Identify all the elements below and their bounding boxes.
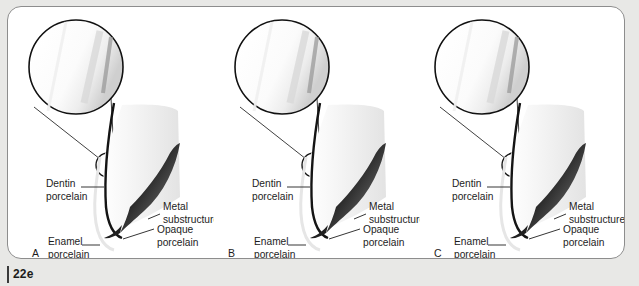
figure-root: Dentin porcelain Enamel porcelain Metal …: [0, 0, 639, 286]
panel-letter-b: B: [228, 247, 235, 259]
opaque-label-line2: porcelain: [363, 237, 404, 248]
enamel-label-line1: Enamel: [254, 236, 289, 247]
magnifier-circle: [435, 20, 529, 114]
dentin-label-line2: porcelain: [452, 191, 493, 202]
dentin-label-line1: Dentin: [452, 178, 481, 189]
enamel-label-line2: porcelain: [48, 249, 89, 259]
panel-letter-a: A: [32, 247, 39, 259]
dentin-label-line2: porcelain: [46, 191, 87, 202]
caption-number: 22e: [13, 268, 34, 280]
magnifier-leader-line-lower: [240, 107, 306, 159]
caption-rule: [7, 266, 9, 283]
figure-frame: Dentin porcelain Enamel porcelain Metal …: [7, 6, 625, 259]
opaque-label-line2: porcelain: [563, 237, 604, 248]
figure-caption: 22e: [7, 264, 34, 284]
panel-a-illustration: Dentin porcelain Enamel porcelain Metal …: [8, 7, 214, 259]
magnifier-leader-line-lower: [34, 107, 100, 159]
enamel-label-line2: porcelain: [454, 249, 495, 259]
magnifier-circle: [235, 20, 329, 114]
metal-label-line1: Metal: [369, 201, 394, 212]
dentin-label-line2: porcelain: [252, 191, 293, 202]
opaque-leader: [529, 229, 560, 239]
metal-label-line1: Metal: [569, 201, 594, 212]
panel-c-illustration: Dentin porcelain Enamel porcelain Metal …: [420, 7, 625, 259]
panel-b: Dentin porcelain Enamel porcelain Metal …: [214, 7, 420, 259]
enamel-label-line1: Enamel: [48, 236, 83, 247]
dentin-label-line1: Dentin: [252, 178, 281, 189]
enamel-label-line1: Enamel: [454, 236, 489, 247]
panel-c: Dentin porcelain Enamel porcelain Metal …: [420, 7, 625, 259]
opaque-leader: [123, 229, 154, 239]
dentin-label-line1: Dentin: [46, 178, 75, 189]
opaque-label-line1: Opaque: [563, 224, 600, 235]
opaque-leader: [329, 229, 360, 239]
panel-a: Dentin porcelain Enamel porcelain Metal …: [8, 7, 214, 259]
metal-label-line1: Metal: [163, 201, 188, 212]
magnifier-leader-line-lower: [440, 107, 506, 159]
panel-letter-c: C: [434, 247, 442, 259]
opaque-label-line2: porcelain: [157, 237, 198, 248]
opaque-label-line1: Opaque: [157, 224, 194, 235]
panel-b-illustration: Dentin porcelain Enamel porcelain Metal …: [214, 7, 420, 259]
magnifier-circle: [29, 20, 123, 114]
opaque-label-line1: Opaque: [363, 224, 400, 235]
enamel-label-line2: porcelain: [254, 249, 295, 259]
